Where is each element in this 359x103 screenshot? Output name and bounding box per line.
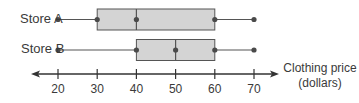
data-point-dot: [173, 47, 178, 52]
data-point-dot: [251, 47, 256, 52]
x-tick-label: 60: [208, 82, 221, 96]
data-point-dot: [212, 47, 217, 52]
data-point-dot: [134, 47, 139, 52]
box-store-b: [55, 40, 256, 61]
x-tick-label: 20: [51, 82, 64, 96]
data-point-dot: [251, 17, 256, 22]
series-label-store-b: Store B: [21, 41, 64, 56]
x-tick-label: 70: [247, 82, 260, 96]
x-tick-label: 30: [91, 82, 104, 96]
data-point-dot: [95, 17, 100, 22]
x-axis-title-line-1: Clothing price: [281, 61, 359, 76]
x-axis-title: Clothing price (dollars): [281, 61, 359, 91]
box-store-a: [55, 9, 256, 30]
x-tick-label: 50: [169, 82, 182, 96]
x-axis-title-line-2: (dollars): [281, 76, 359, 91]
series-label-store-a: Store A: [20, 11, 63, 26]
plot-area: [55, 9, 256, 61]
box-iqr: [97, 9, 215, 30]
data-point-dot: [212, 17, 217, 22]
data-point-dot: [134, 17, 139, 22]
x-tick-label: 40: [130, 82, 143, 96]
x-axis: [31, 69, 279, 79]
